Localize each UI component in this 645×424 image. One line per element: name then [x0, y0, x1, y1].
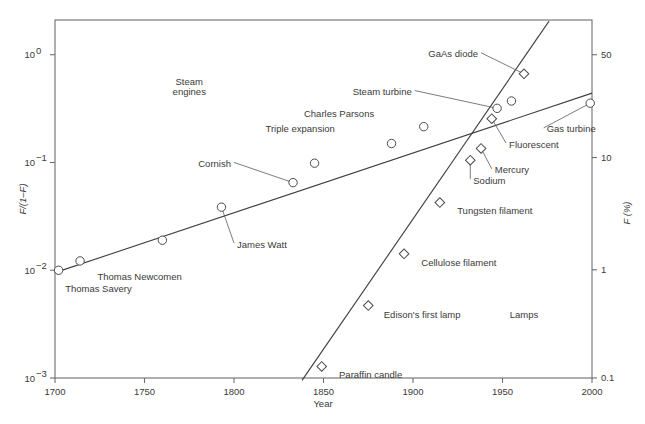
trend-lines [55, 21, 592, 380]
svg-text:−1: −1 [36, 152, 47, 163]
data-point-label: Thomas Newcomen [97, 271, 181, 282]
group-annotation: Lamps [510, 309, 539, 320]
svg-text:10: 10 [24, 265, 35, 276]
data-point-label: GaAs diode [428, 48, 478, 59]
data-point-marker [387, 139, 395, 147]
data-point-marker [420, 122, 428, 130]
data-point-marker [519, 69, 529, 79]
x-tick-label: 2000 [581, 386, 602, 397]
svg-text:0: 0 [36, 45, 41, 56]
data-point-label: Triple expansion [265, 123, 334, 134]
data-point-marker [586, 99, 594, 107]
data-point-label: Steam turbine [353, 86, 412, 97]
data-point-marker [158, 236, 166, 244]
data-point-label: Mercury [495, 164, 530, 175]
y-tick-label: 10−1 [24, 152, 46, 168]
data-point-label: Tungsten filament [457, 205, 533, 216]
x-tick-label: 1800 [223, 386, 244, 397]
axis-titles: Year F/(1–F) F (%) [17, 183, 632, 409]
y-axis-ticks-left: 10010−110−210−3 [24, 45, 55, 384]
data-point-label: Edison's first lamp [384, 309, 461, 320]
data-point-marker [487, 114, 497, 124]
svg-text:10: 10 [24, 373, 35, 384]
svg-text:−2: −2 [36, 260, 47, 271]
chart-canvas: 1700175018001850190019502000 10010−110−2… [0, 0, 645, 424]
svg-text:10: 10 [24, 157, 35, 168]
data-point-label: James Watt [237, 239, 287, 250]
x-tick-label: 1850 [313, 386, 334, 397]
data-point-label: Thomas Savery [65, 283, 132, 294]
data-point-labels: Thomas SaveryThomas NewcomenJames WattCo… [65, 48, 596, 380]
data-point-label: Sodium [473, 175, 505, 186]
data-point-marker [476, 144, 486, 154]
data-point-marker [217, 203, 225, 211]
y-axis-title-left: F/(1–F) [17, 183, 28, 214]
data-point-marker [435, 198, 445, 208]
data-point-marker [465, 155, 475, 165]
data-point-marker [363, 301, 373, 311]
data-point-marker [289, 178, 297, 186]
x-tick-label: 1700 [44, 386, 65, 397]
trend-line [55, 93, 592, 272]
data-point-marker [507, 97, 515, 105]
data-point-label: Paraffin candle [339, 369, 402, 380]
leader-line [415, 91, 497, 109]
data-point-label: Cornish [198, 158, 231, 169]
y-tick-label-right: 0.1 [601, 372, 614, 383]
y-tick-label-right: 10 [601, 152, 612, 163]
x-tick-label: 1900 [402, 386, 423, 397]
trend-line [302, 21, 549, 380]
y-axis-title-right: F (%) [621, 201, 632, 224]
y-tick-label-right: 50 [601, 49, 612, 60]
leader-line [481, 53, 524, 74]
data-point-label: Cellulose filament [421, 257, 496, 268]
data-point-marker [54, 266, 62, 274]
leader-line [221, 207, 234, 243]
y-axis-ticks-right: 501010.1 [592, 49, 614, 383]
group-annotation: engines [173, 86, 207, 97]
data-point-label: Gas turbine [547, 123, 596, 134]
data-point-label: Charles Parsons [304, 108, 374, 119]
y-tick-label: 100 [24, 45, 41, 61]
data-point-marker [76, 257, 84, 265]
y-tick-label-right: 1 [601, 264, 606, 275]
svg-text:−3: −3 [36, 368, 47, 379]
x-axis-ticks: 1700175018001850190019502000 [44, 378, 602, 397]
data-point-marker [317, 362, 327, 372]
plot-frame [55, 20, 592, 378]
x-tick-label: 1950 [492, 386, 513, 397]
y-tick-label: 10−3 [24, 368, 46, 384]
data-point-marker [310, 159, 318, 167]
leader-line [234, 162, 293, 182]
x-axis-title: Year [313, 398, 332, 409]
data-point-marker [399, 249, 409, 259]
data-point-label: Fluorescent [509, 139, 559, 150]
svg-text:10: 10 [24, 49, 35, 60]
y-tick-label: 10−2 [24, 260, 46, 276]
x-tick-label: 1750 [134, 386, 155, 397]
chart-figure: 1700175018001850190019502000 10010−110−2… [0, 0, 645, 424]
data-point-marker [493, 104, 501, 112]
